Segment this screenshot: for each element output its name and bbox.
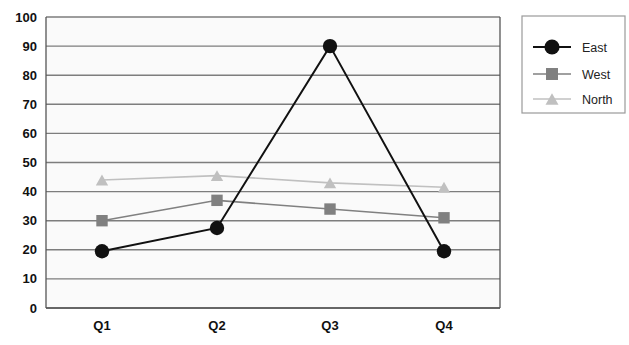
legend-label-west: West: [582, 68, 611, 82]
legend-label-east: East: [582, 41, 608, 55]
legend-square-marker-west: [546, 68, 558, 80]
legend-circle-marker-east: [544, 39, 559, 54]
y-tick-label: 0: [30, 301, 37, 316]
y-tick-label: 100: [15, 10, 37, 25]
x-tick-label-q3: Q3: [321, 318, 338, 333]
legend-label-north: North: [582, 93, 613, 107]
chart-canvas: 0102030405060708090100 Q1Q2Q3Q4 EastWest…: [0, 0, 629, 345]
datapoint-west-q2: [211, 195, 222, 206]
x-tick-label-q4: Q4: [435, 318, 453, 333]
datapoint-east-q3: [323, 39, 337, 53]
datapoint-west-q1: [96, 215, 107, 226]
datapoint-east-q2: [210, 221, 224, 235]
y-tick-label: 80: [23, 68, 37, 83]
x-tick-label-q2: Q2: [208, 318, 225, 333]
y-tick-label: 50: [23, 155, 37, 170]
y-tick-label: 10: [23, 271, 37, 286]
y-tick-label: 60: [23, 126, 37, 141]
y-tick-label: 90: [23, 39, 37, 54]
datapoint-east-q4: [437, 244, 451, 258]
x-tick-label-q1: Q1: [93, 318, 110, 333]
datapoint-west-q3: [324, 203, 335, 214]
y-tick-label: 40: [23, 184, 37, 199]
datapoint-west-q4: [438, 212, 449, 223]
y-tick-label: 20: [23, 242, 37, 257]
datapoint-east-q1: [95, 244, 109, 258]
line-chart: 0102030405060708090100 Q1Q2Q3Q4 EastWest…: [0, 0, 629, 345]
y-tick-label: 70: [23, 97, 37, 112]
y-tick-label: 30: [23, 213, 37, 228]
